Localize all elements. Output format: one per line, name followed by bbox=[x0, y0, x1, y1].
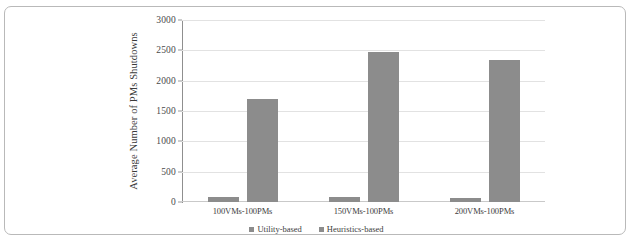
y-axis-tick-label: 2500 bbox=[156, 45, 176, 55]
legend-item-heuristics: Heuristics-based bbox=[319, 224, 384, 234]
y-axis-tick-label: 500 bbox=[161, 167, 176, 177]
legend-swatch-icon bbox=[319, 227, 324, 232]
legend-label: Utility-based bbox=[257, 224, 301, 234]
bar-group bbox=[303, 20, 424, 202]
x-axis-tick-label: 100VMs-100PMs bbox=[182, 206, 303, 216]
plot-area: 050010001500200025003000 bbox=[182, 20, 545, 202]
bar-heuristics-based bbox=[247, 99, 278, 202]
y-axis-tick-label: 2000 bbox=[156, 76, 176, 86]
bar-heuristics-based bbox=[489, 60, 520, 202]
y-axis-tick-label: 1000 bbox=[156, 136, 176, 146]
bar-group bbox=[182, 20, 303, 202]
x-axis-tick-label: 150VMs-100PMs bbox=[303, 206, 424, 216]
legend-swatch-icon bbox=[249, 227, 254, 232]
bar-chart-figure: Average Number of PMs Shutdowns 05001000… bbox=[0, 0, 633, 247]
y-axis-tick-label: 0 bbox=[171, 197, 176, 207]
bar-heuristics-based bbox=[368, 52, 399, 202]
y-axis-tick-label: 3000 bbox=[156, 15, 176, 25]
bar-utility-based bbox=[208, 197, 239, 202]
bar-utility-based bbox=[329, 197, 360, 202]
legend-label: Heuristics-based bbox=[327, 224, 384, 234]
y-axis-title: Average Number of PMs Shutdowns bbox=[128, 20, 144, 202]
chart-legend: Utility-based Heuristics-based bbox=[0, 224, 633, 234]
y-axis-tick-label: 1500 bbox=[156, 106, 176, 116]
x-axis-tick-label: 200VMs-100PMs bbox=[424, 206, 545, 216]
bar-utility-based bbox=[450, 198, 481, 202]
legend-item-utility: Utility-based bbox=[249, 224, 301, 234]
bar-group bbox=[424, 20, 545, 202]
